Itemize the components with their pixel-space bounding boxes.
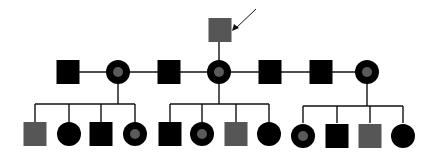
black-square-icon <box>259 60 282 84</box>
gray-square-icon <box>359 124 382 148</box>
black-square-icon <box>159 122 182 146</box>
arrowhead-icon <box>232 24 239 31</box>
carrier-dot-icon <box>113 67 123 77</box>
black-circle-icon <box>391 124 415 148</box>
gray-square-icon <box>209 18 232 42</box>
black-square-icon <box>326 124 349 148</box>
black-square-icon <box>57 60 80 84</box>
pedigree-chart <box>0 0 434 161</box>
pedigree-diagram <box>0 0 434 161</box>
proband-arrow <box>235 9 256 29</box>
black-square-icon <box>158 60 181 84</box>
gray-square-icon <box>24 122 47 146</box>
gray-square-icon <box>225 122 248 146</box>
carrier-dot-icon <box>130 129 140 139</box>
carrier-dot-icon <box>362 67 372 77</box>
carrier-dot-icon <box>214 67 224 77</box>
black-square-icon <box>310 60 333 84</box>
black-square-icon <box>90 122 113 146</box>
black-circle-icon <box>257 122 281 146</box>
black-circle-icon <box>57 122 81 146</box>
carrier-dot-icon <box>197 129 207 139</box>
carrier-dot-icon <box>298 131 308 141</box>
